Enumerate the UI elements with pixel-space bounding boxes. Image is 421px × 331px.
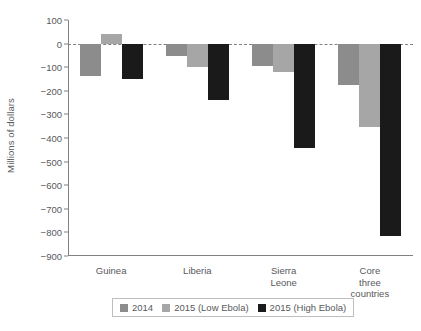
plot-area: 1000−100−200−300−400−500−600−700−800−900… [68, 20, 413, 256]
legend-swatch-icon [162, 304, 170, 312]
bar [166, 44, 187, 56]
x-axis-category-label: Guinea [96, 265, 127, 277]
legend-label: 2015 (High Ebola) [270, 302, 347, 313]
y-axis-tick-label: 100 [22, 15, 62, 26]
bar-group: Liberia [154, 20, 240, 256]
legend-entry[interactable]: 2015 (Low Ebola) [162, 302, 248, 313]
y-axis-title-container: Millions of dollars [0, 0, 20, 270]
y-axis-tick-label: −600 [22, 180, 62, 191]
bar-group: Core three countries [327, 20, 413, 256]
y-axis-tick-label: −400 [22, 133, 62, 144]
legend-label: 2015 (Low Ebola) [174, 302, 248, 313]
bar [187, 44, 208, 68]
bar-group: Sierra Leone [241, 20, 327, 256]
bar [80, 44, 101, 77]
chart-legend: 20142015 (Low Ebola)2015 (High Ebola) [112, 298, 354, 317]
y-axis-tick-label: −200 [22, 85, 62, 96]
bar-groups: GuineaLiberiaSierra LeoneCore three coun… [68, 20, 413, 256]
bar [380, 44, 401, 237]
y-axis-tick-label: −300 [22, 109, 62, 120]
legend-label: 2014 [132, 302, 153, 313]
bar [101, 34, 122, 43]
chart-figure: Millions of dollars 1000−100−200−300−400… [0, 0, 421, 331]
y-axis-tick-label: −100 [22, 62, 62, 73]
x-axis-category-label: Sierra Leone [262, 265, 305, 288]
y-axis-tick-label: −900 [22, 251, 62, 262]
legend-entry[interactable]: 2014 [120, 302, 153, 313]
bar [273, 44, 294, 73]
bar [122, 44, 143, 79]
y-axis-tick-label: −800 [22, 227, 62, 238]
y-axis-tick-label: 0 [22, 38, 62, 49]
legend-swatch-icon [258, 304, 266, 312]
x-axis-category-label: Liberia [183, 265, 212, 277]
y-axis-tick-label: −700 [22, 203, 62, 214]
y-axis-title: Millions of dollars [5, 98, 16, 173]
x-axis-category-label: Core three countries [348, 265, 391, 300]
bar [294, 44, 315, 148]
y-axis-tick-label: −500 [22, 156, 62, 167]
bar [338, 44, 359, 86]
bar [359, 44, 380, 128]
bar [208, 44, 229, 101]
legend-entry[interactable]: 2015 (High Ebola) [258, 302, 347, 313]
bar [252, 44, 273, 66]
bar-group: Guinea [68, 20, 154, 256]
legend-swatch-icon [120, 304, 128, 312]
